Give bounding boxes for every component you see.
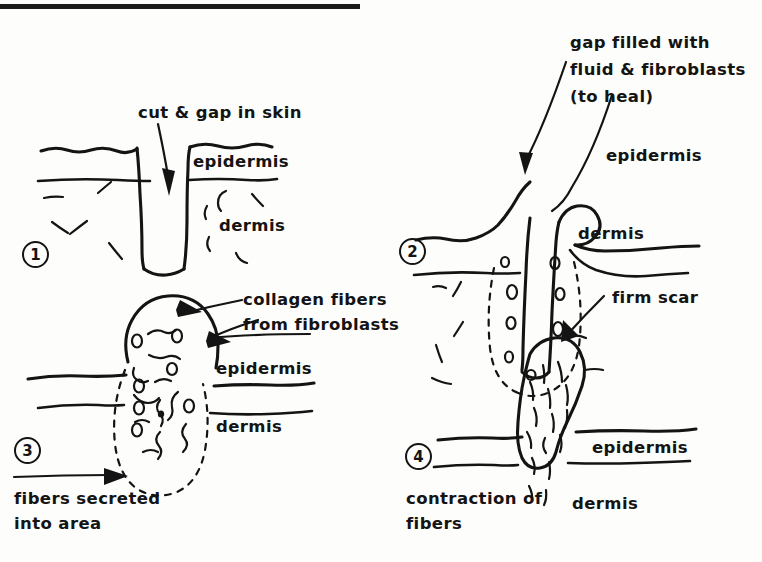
panel-4-dermis-label: dermis [572,494,638,513]
figure-canvas: cut & gap in skin epidermis dermis 1 [0,0,762,562]
panel-4-callout-label: firm scar [612,288,698,307]
panel-4-caption-line1: contraction of [406,489,542,508]
panel-4-number: 4 [405,443,432,470]
panel-4-caption-line2: fibers [406,514,462,533]
panel-4-epidermis-label: epidermis [592,438,688,457]
panel-4-drawing [0,0,762,562]
